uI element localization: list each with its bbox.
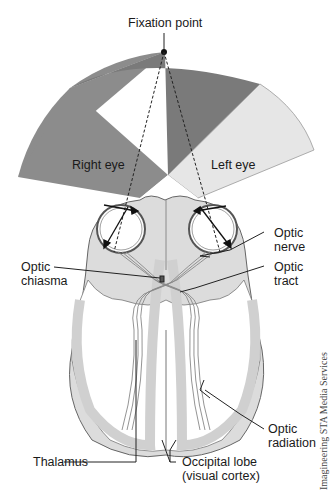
fixation-point-label: Fixation point <box>128 16 202 30</box>
occipital-lobe-label: Occipital lobe (visual cortex) <box>182 455 260 483</box>
right-eye-label: Right eye <box>72 158 125 172</box>
optic-chiasma-label: Optic chiasma <box>21 260 68 288</box>
thalamus-label: Thalamus <box>33 455 88 469</box>
optic-tract-label: Optic tract <box>274 260 303 288</box>
visual-fields <box>18 52 314 198</box>
left-eye-label: Left eye <box>211 158 255 172</box>
optic-radiation-label: Optic radiation <box>268 422 316 450</box>
optic-nerve-label: Optic nerve <box>274 226 305 254</box>
image-credit: Imagineering STA Media Services <box>318 352 329 490</box>
